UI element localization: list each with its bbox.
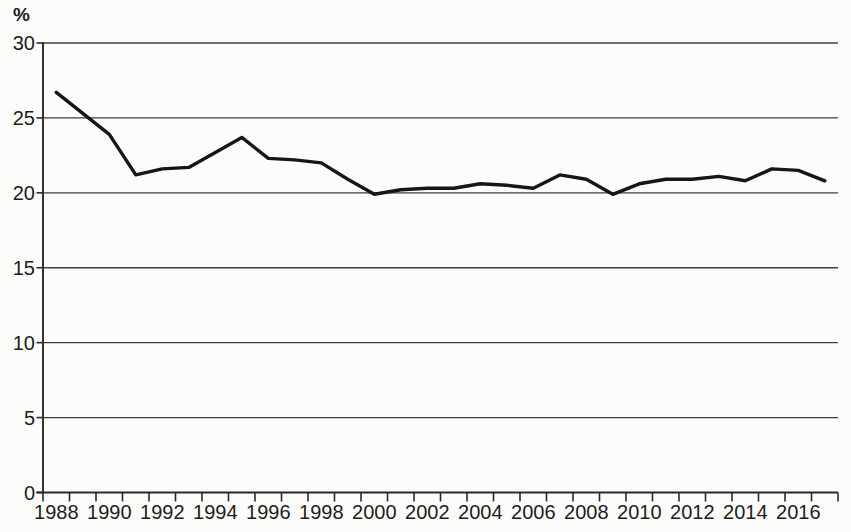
x-tick-label: 1992 <box>140 501 185 523</box>
chart-page: 0510152025301988199019921994199619982000… <box>0 0 851 532</box>
x-tick-label: 2010 <box>617 501 662 523</box>
x-tick-label: 2014 <box>723 501 768 523</box>
data-series-line <box>56 92 825 194</box>
x-tick-label: 2012 <box>670 501 715 523</box>
chart-canvas: 0510152025301988199019921994199619982000… <box>0 0 851 532</box>
x-tick-label: 2016 <box>776 501 821 523</box>
y-axis-unit-label: % <box>13 4 30 25</box>
x-tick-label: 1988 <box>34 501 79 523</box>
y-tick-label: 15 <box>13 257 35 279</box>
x-tick-label: 1994 <box>193 501 238 523</box>
x-tick-label: 1996 <box>246 501 291 523</box>
y-tick-label: 5 <box>24 407 35 429</box>
line-chart-figure: 0510152025301988199019921994199619982000… <box>0 0 851 532</box>
x-tick-label: 2002 <box>405 501 450 523</box>
y-tick-label: 30 <box>13 32 35 54</box>
x-tick-label: 2006 <box>511 501 556 523</box>
x-tick-label: 2008 <box>564 501 609 523</box>
x-tick-label: 1998 <box>299 501 344 523</box>
y-tick-label: 10 <box>13 332 35 354</box>
x-tick-label: 2004 <box>458 501 503 523</box>
x-tick-label: 2000 <box>352 501 397 523</box>
y-tick-label: 20 <box>13 182 35 204</box>
x-tick-label: 1990 <box>87 501 132 523</box>
y-tick-label: 25 <box>13 107 35 129</box>
